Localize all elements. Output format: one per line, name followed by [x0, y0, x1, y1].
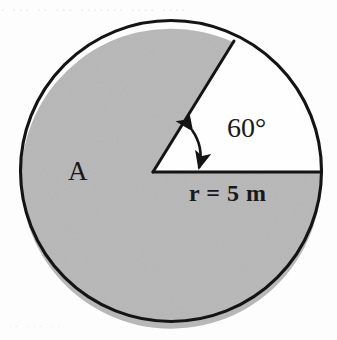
shaded-area-label: A [68, 158, 88, 185]
figure-root: A 60° r = 5 m · ··· ·· ··· ······· ···· … [0, 0, 337, 340]
radius-label: r = 5 m [189, 181, 266, 205]
sector-diagram-svg [0, 0, 337, 340]
angle-label: 60° [227, 114, 266, 142]
